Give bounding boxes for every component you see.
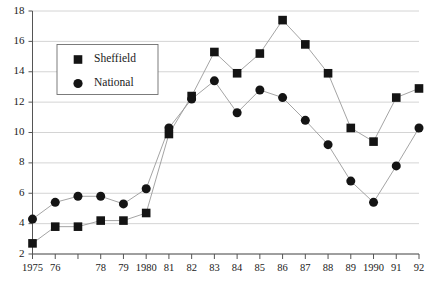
- data-point-sheffield: [51, 222, 60, 231]
- x-axis-label: 76: [50, 262, 61, 273]
- line-chart: 24681012141618 1975767879198081828384858…: [0, 0, 427, 300]
- y-axis-label: 18: [14, 4, 26, 16]
- x-axis-label: 81: [164, 262, 175, 273]
- data-point-national: [210, 76, 219, 85]
- data-point-national: [28, 215, 37, 224]
- x-axis-label: 78: [95, 262, 106, 273]
- data-point-national: [51, 198, 60, 207]
- data-point-national: [73, 192, 82, 201]
- data-point-national: [415, 123, 424, 132]
- data-point-sheffield: [415, 84, 424, 93]
- data-point-national: [119, 199, 128, 208]
- y-axis-label: 2: [19, 247, 25, 259]
- x-axis-label: 88: [323, 262, 334, 273]
- x-axis-label: 92: [414, 262, 425, 273]
- data-point-sheffield: [210, 48, 219, 57]
- y-axis-label: 6: [19, 186, 25, 198]
- data-point-sheffield: [28, 239, 37, 248]
- data-point-national: [255, 85, 264, 94]
- y-axis-label: 14: [14, 64, 26, 76]
- legend-marker-national: [73, 79, 82, 88]
- data-point-sheffield: [278, 16, 287, 25]
- x-axis-label: 1990: [363, 262, 384, 273]
- y-axis-label: 12: [14, 95, 25, 107]
- data-point-national: [346, 177, 355, 186]
- data-point-national: [96, 192, 105, 201]
- data-point-sheffield: [369, 137, 378, 146]
- data-point-sheffield: [392, 93, 401, 102]
- x-axis-label: 85: [255, 262, 266, 273]
- y-axis-labels-group: 24681012141618: [14, 4, 26, 259]
- data-point-sheffield: [346, 124, 355, 133]
- series-line-national: [33, 81, 420, 219]
- chart-page: 24681012141618 1975767879198081828384858…: [0, 0, 427, 300]
- x-axis-label: 1980: [136, 262, 157, 273]
- data-point-national: [187, 95, 196, 104]
- legend-label-sheffield: Sheffield: [94, 52, 136, 64]
- x-axis-label: 91: [391, 262, 402, 273]
- data-point-sheffield: [256, 49, 265, 58]
- x-axis-label: 1975: [22, 262, 43, 273]
- x-axis-label: 87: [300, 262, 311, 273]
- x-axis-label: 89: [346, 262, 357, 273]
- data-point-national: [301, 116, 310, 125]
- legend: SheffieldNational: [57, 45, 158, 95]
- x-axis-ticks-group: [33, 254, 420, 259]
- x-axis-labels-group: 1975767879198081828384858687888919909192: [22, 262, 424, 273]
- data-point-sheffield: [96, 216, 105, 225]
- legend-label-national: National: [94, 76, 134, 88]
- x-axis-label: 79: [118, 262, 129, 273]
- legend-marker-sheffield: [74, 55, 83, 64]
- data-point-sheffield: [324, 69, 333, 78]
- y-axis-label: 8: [19, 155, 25, 167]
- data-point-national: [142, 184, 151, 193]
- data-point-national: [164, 123, 173, 132]
- x-axis-label: 86: [277, 262, 288, 273]
- data-point-sheffield: [74, 222, 83, 231]
- y-axis-label: 16: [14, 34, 26, 46]
- data-point-national: [233, 108, 242, 117]
- data-point-national: [369, 198, 378, 207]
- data-point-national: [392, 161, 401, 170]
- data-point-national: [324, 140, 333, 149]
- data-point-national: [278, 93, 287, 102]
- y-axis-label: 4: [19, 216, 25, 228]
- x-axis-label: 84: [232, 262, 243, 273]
- data-point-sheffield: [142, 209, 151, 218]
- chart-svg: 24681012141618 1975767879198081828384858…: [0, 0, 427, 300]
- data-point-sheffield: [233, 69, 242, 78]
- data-point-sheffield: [119, 216, 128, 225]
- data-point-sheffield: [301, 40, 310, 49]
- x-axis-label: 83: [209, 262, 220, 273]
- y-axis-label: 10: [14, 125, 26, 137]
- x-axis-label: 82: [186, 262, 197, 273]
